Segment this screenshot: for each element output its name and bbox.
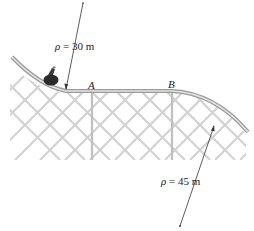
radius-value-30: = 30 m (63, 40, 94, 52)
coaster-car (44, 66, 59, 86)
rho-symbol: ρ (161, 175, 166, 187)
radius-label-45: ρ = 45 m (161, 175, 200, 187)
radius-label-30: ρ = 30 m (55, 40, 94, 52)
lattice-support (0, 60, 254, 160)
roller-coaster-figure: A B ρ = 30 m ρ = 45 m (0, 0, 254, 231)
point-b-label: B (168, 78, 175, 90)
radius-value-45: = 45 m (169, 175, 200, 187)
diagram-canvas (0, 0, 254, 231)
point-a-label: A (88, 79, 95, 91)
rho-symbol: ρ (55, 40, 60, 52)
